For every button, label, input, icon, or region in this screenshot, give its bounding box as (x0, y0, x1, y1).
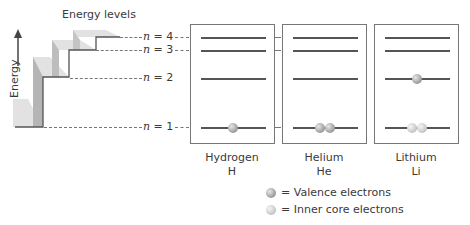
atom-box-helium (282, 24, 367, 144)
valence-electron (412, 74, 422, 84)
legend-item-valence: = Valence electrons (266, 186, 404, 199)
legend-text: = Valence electrons (281, 186, 391, 199)
guide-gap-n1 (275, 127, 281, 128)
guide-gap-n4 (275, 37, 281, 38)
level-line-n3 (201, 50, 266, 52)
valence-electron (315, 123, 325, 133)
valence-electron-icon (266, 188, 276, 198)
level-line-n2 (293, 78, 358, 80)
guide-n3-left (96, 50, 142, 51)
guide-gap-n3 (275, 50, 281, 51)
level-line-n4 (201, 37, 266, 39)
atom-box-lithium (374, 24, 459, 144)
legend-text: = Inner core electrons (281, 203, 404, 216)
legend-item-core: = Inner core electrons (266, 203, 404, 216)
core-electron-icon (266, 205, 276, 215)
guide-n1-left (44, 127, 142, 128)
guide-n3-right (175, 50, 189, 51)
atom-label-hydrogen: Hydrogen H (190, 151, 274, 179)
level-label-n3: n = 3 (143, 43, 173, 56)
guide-n4-right (175, 37, 189, 38)
atom-symbol: He (282, 165, 366, 179)
valence-electron (228, 123, 238, 133)
legend: = Valence electrons = Inner core electro… (266, 186, 404, 216)
core-electron (407, 123, 417, 133)
level-line-n4 (385, 37, 450, 39)
atom-name: Hydrogen (190, 151, 274, 165)
guide-n4-left (120, 37, 142, 38)
guide-n2-left (70, 78, 142, 79)
level-line-n3 (293, 50, 358, 52)
level-label-n2: n = 2 (143, 71, 173, 84)
level-line-n4 (293, 37, 358, 39)
atom-label-lithium: Lithium Li (374, 151, 458, 179)
level-label-n4: n = 4 (143, 30, 173, 43)
atom-name: Lithium (374, 151, 458, 165)
diagram-title: Energy levels (62, 8, 136, 21)
atom-name: Helium (282, 151, 366, 165)
atom-label-helium: Helium He (282, 151, 366, 179)
core-electron (417, 123, 427, 133)
atom-symbol: H (190, 165, 274, 179)
atom-symbol: Li (374, 165, 458, 179)
atom-box-hydrogen (190, 24, 275, 144)
level-label-n1: n = 1 (143, 120, 173, 133)
guide-n1-right (175, 127, 189, 128)
valence-electron (325, 123, 335, 133)
level-line-n2 (201, 78, 266, 80)
level-line-n3 (385, 50, 450, 52)
